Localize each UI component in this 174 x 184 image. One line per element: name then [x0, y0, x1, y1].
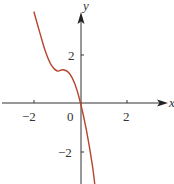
x-tick-label-neg2: −2 [22, 109, 36, 124]
x-tick-label-pos2: 2 [123, 109, 130, 124]
y-tick-label-pos2: 2 [68, 48, 75, 63]
x-axis-label: x [168, 95, 174, 110]
origin-label: 0 [67, 109, 74, 124]
y-axis-label: y [81, 0, 89, 13]
function-graph: x y −2 0 2 2 −2 [0, 0, 174, 184]
y-tick-label-neg2: −2 [58, 145, 72, 160]
